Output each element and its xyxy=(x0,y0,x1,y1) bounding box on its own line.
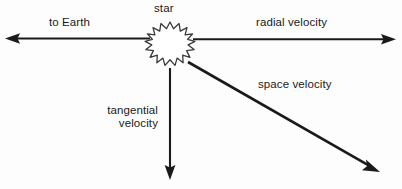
tangential-velocity-label-line-1: tangential xyxy=(107,104,158,116)
star-burst-shape xyxy=(145,22,195,65)
tangential-velocity-label: tangentialvelocity xyxy=(98,104,158,130)
tangential-velocity-label-line-2: velocity xyxy=(119,117,158,129)
velocity-vector-diagram: star to Earth radial velocity tangential… xyxy=(0,0,402,189)
space-velocity-label: space velocity xyxy=(258,78,332,91)
to-earth-label: to Earth xyxy=(49,16,90,29)
star-burst-icon xyxy=(145,22,195,65)
arrow-tangential-velocity xyxy=(165,68,176,180)
star-label: star xyxy=(154,2,174,15)
arrow-radial-velocity xyxy=(193,34,396,45)
arrow-space-velocity-head xyxy=(362,159,380,172)
arrow-to-earth xyxy=(5,33,150,44)
radial-velocity-label: radial velocity xyxy=(256,16,327,29)
